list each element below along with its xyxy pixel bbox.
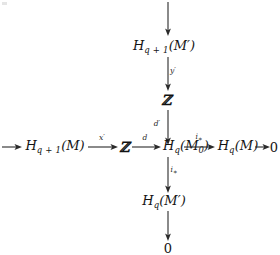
arrow-label-d-base: d (143, 133, 148, 142)
node-h-q-plus-1-m-arg: (M) (61, 138, 84, 153)
node-h-q-m: Hq(M) (218, 139, 258, 154)
node-h-q-plus-1-m-prime: Hq + 1(M′) (133, 39, 195, 54)
arrow-label-d-prime-mark: ′ (159, 119, 161, 127)
arrow-label-i-star-down: i∗ (171, 166, 178, 175)
arrow-top-incoming (163, 2, 173, 36)
arrow-bottom-to-zero (163, 211, 173, 241)
node-integers-top: ℤ (161, 92, 171, 108)
node-h-q-m-prime-arg: (M′) (159, 193, 185, 208)
node-zero-row-end: 0 (270, 140, 278, 155)
arrow-label-gamma-prime-mark: ′ (174, 66, 176, 74)
commutative-diagram: Hq + 1(M′) y′ ℤ d′ Hq + 1(M) (0, 0, 280, 255)
arrow-label-i-star-row: i∗ (196, 133, 203, 142)
arrow-i-star-row (184, 142, 215, 152)
node-h-q-plus-1-m-prime-sub: q + 1 (144, 45, 168, 55)
arrow-label-i-star-down-mark: ∗ (173, 168, 177, 176)
node-h-q-plus-1-m-prime-base: H (133, 38, 144, 53)
node-integers-row: ℤ (119, 139, 129, 155)
arrow-x-prime (88, 142, 118, 152)
node-h-q-m-prime: Hq(M′) (142, 194, 185, 209)
arrow-label-x-prime: x′ (99, 134, 105, 142)
arrow-d (132, 142, 161, 152)
node-h-q-m0-base: H (163, 138, 174, 153)
arrow-label-gamma-prime: y′ (170, 67, 176, 75)
node-h-q-plus-1-m-prime-arg: (M′) (169, 38, 195, 53)
arrow-label-i-star-row-mark: ∗ (198, 135, 202, 143)
arrow-row-incoming (2, 142, 22, 152)
node-h-q-plus-1-m: Hq + 1(M) (25, 139, 84, 154)
scan-speck (2, 2, 7, 5)
arrow-label-d: d (143, 134, 148, 142)
node-zero-bottom: 0 (164, 241, 172, 255)
arrow-label-d-prime: d′ (154, 120, 160, 128)
node-h-q-plus-1-m-sub: q + 1 (37, 145, 61, 155)
node-h-q-m-prime-base: H (142, 193, 153, 208)
arrow-label-x-prime-mark: ′ (103, 133, 105, 141)
node-h-q-m-base: H (218, 138, 229, 153)
node-h-q-plus-1-m-base: H (25, 138, 36, 153)
arrow-row-to-zero (255, 142, 270, 152)
